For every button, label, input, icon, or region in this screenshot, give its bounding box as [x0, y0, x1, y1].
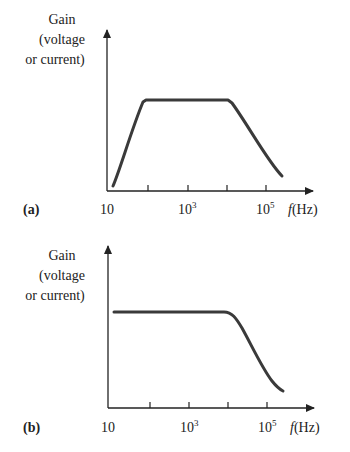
- y-axis-label-line1: Gain: [48, 12, 75, 27]
- gain-curve-lowpass: [114, 312, 283, 391]
- y-axis-label-line3: or current): [25, 288, 85, 304]
- y-axis-label-line1: Gain: [48, 248, 75, 263]
- tick-label-10: 10: [100, 202, 114, 217]
- y-axis-label-line2: (voltage: [39, 268, 85, 284]
- figure: Gain (voltage or current) (a) 10 103 105…: [0, 0, 350, 452]
- y-axis-label-line2: (voltage: [39, 32, 85, 48]
- tick-label-1e3: 103: [180, 418, 199, 435]
- x-ticks: [150, 402, 267, 408]
- tick-label-1e3: 103: [178, 200, 197, 217]
- panel-b: Gain (voltage or current) (b) 10 103 105…: [23, 246, 320, 436]
- tick-label-1e5: 105: [256, 200, 275, 217]
- x-ticks: [148, 185, 266, 191]
- y-axis-label-line3: or current): [25, 52, 85, 68]
- tick-label-10: 10: [101, 420, 115, 435]
- x-axis-label: f(Hz): [288, 202, 318, 218]
- panel-a: Gain (voltage or current) (a) 10 103 105…: [23, 12, 318, 218]
- x-axis-label: f(Hz): [290, 420, 320, 436]
- tick-label-1e5: 105: [258, 418, 277, 435]
- gain-curve-bandpass: [113, 100, 282, 186]
- panel-label-b: (b): [23, 420, 40, 436]
- panel-label-a: (a): [23, 202, 40, 218]
